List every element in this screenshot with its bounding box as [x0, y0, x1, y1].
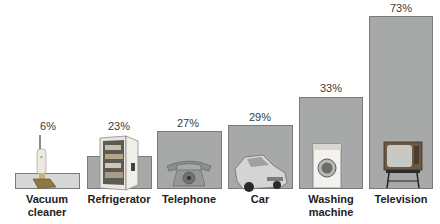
- value-label-washing-machine: 33%: [296, 82, 366, 94]
- value-label-television: 73%: [366, 2, 436, 14]
- television-icon: [383, 141, 423, 189]
- category-label-refrigerator: Refrigerator: [81, 193, 157, 206]
- category-label-telephone: Telephone: [151, 193, 227, 206]
- vacuum-cleaner-icon: [30, 135, 60, 191]
- category-label-car: Car: [222, 193, 298, 206]
- value-label-telephone: 27%: [153, 117, 223, 129]
- category-label-washing-machine: Washingmachine: [293, 193, 369, 219]
- value-label-car: 29%: [225, 111, 295, 123]
- telephone-icon: [165, 158, 213, 188]
- car-icon: [233, 151, 289, 193]
- category-label-vacuum-cleaner: Vacuumcleaner: [9, 193, 85, 219]
- value-label-vacuum-cleaner: 6%: [13, 120, 83, 132]
- washing-machine-icon: [312, 143, 342, 189]
- category-label-television: Television: [363, 193, 439, 206]
- value-label-refrigerator: 23%: [84, 120, 154, 132]
- refrigerator-icon: [98, 135, 142, 191]
